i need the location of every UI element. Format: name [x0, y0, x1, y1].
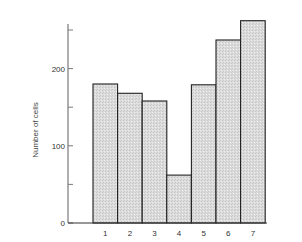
x-tick-label: 7 [251, 229, 256, 238]
bar-7 [241, 21, 266, 223]
bar-chart: 0100200 1234567 Number of cells [0, 0, 302, 242]
y-axis: 0100200 [52, 24, 73, 228]
x-tick-label: 2 [128, 229, 133, 238]
y-tick-label: 200 [52, 65, 66, 74]
bars-group [93, 21, 265, 223]
y-tick-label: 100 [52, 142, 66, 151]
x-tick-label: 4 [177, 229, 182, 238]
x-axis: 1234567 [68, 223, 267, 238]
x-tick-label: 1 [103, 229, 108, 238]
x-tick-label: 3 [152, 229, 157, 238]
x-tick-label: 6 [226, 229, 231, 238]
x-tick-label: 5 [201, 229, 206, 238]
y-tick-label: 0 [61, 219, 66, 228]
y-axis-title: Number of cells [31, 102, 40, 158]
bar-3 [142, 101, 167, 223]
bar-4 [167, 175, 192, 223]
bar-6 [216, 40, 241, 223]
bar-2 [118, 93, 143, 223]
bar-1 [93, 84, 118, 223]
bar-5 [191, 85, 216, 223]
